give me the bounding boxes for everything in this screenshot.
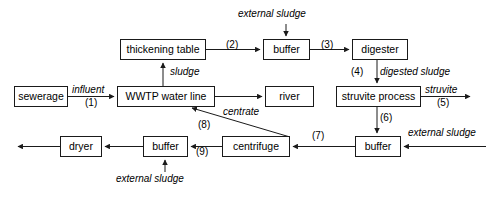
label-struvite-output: struvite <box>425 85 457 95</box>
label-flow-8: (8) <box>198 120 210 130</box>
node-digester[interactable]: digester <box>352 39 408 60</box>
label-external-sludge-right: external sludge <box>408 128 476 138</box>
label-external-sludge-bottom: external sludge <box>116 174 184 184</box>
label-flow-3: (3) <box>321 40 333 50</box>
node-river[interactable]: river <box>265 86 314 107</box>
node-sewerage[interactable]: sewerage <box>14 86 68 107</box>
label-flow-2: (2) <box>226 40 238 50</box>
node-label: centrifuge <box>233 141 279 152</box>
node-label: struvite process <box>342 91 416 102</box>
label-flow-4: (4) <box>351 67 363 77</box>
node-centrifuge[interactable]: centrifuge <box>222 136 290 157</box>
label-influent: influent <box>72 85 104 95</box>
node-label: thickening table <box>127 44 200 55</box>
label-sludge: sludge <box>170 67 199 77</box>
node-label: dryer <box>69 141 93 152</box>
node-label: buffer <box>273 44 300 55</box>
flow-diagram: sewerage WWTP water line thickening tabl… <box>0 0 487 199</box>
node-label: buffer <box>152 141 179 152</box>
label-centrate: centrate <box>223 107 259 117</box>
node-label: river <box>279 91 299 102</box>
node-wwtp-water-line[interactable]: WWTP water line <box>117 86 215 107</box>
node-dryer[interactable]: dryer <box>60 136 102 157</box>
label-flow-9: (9) <box>196 147 208 157</box>
label-flow-7: (7) <box>312 131 324 141</box>
label-flow-5: (5) <box>437 98 449 108</box>
node-buffer-bottom-right[interactable]: buffer <box>355 136 401 157</box>
node-label: digester <box>361 44 398 55</box>
node-struvite-process[interactable]: struvite process <box>336 86 421 107</box>
label-digested-sludge: digested sludge <box>380 67 450 77</box>
label-flow-1: (1) <box>85 98 97 108</box>
node-label: WWTP water line <box>126 91 207 102</box>
label-flow-6: (6) <box>380 113 392 123</box>
node-label: buffer <box>365 141 392 152</box>
node-buffer-top[interactable]: buffer <box>263 39 310 60</box>
node-thickening-table[interactable]: thickening table <box>120 39 206 60</box>
node-label: sewerage <box>18 91 64 102</box>
label-external-sludge-top: external sludge <box>238 9 306 19</box>
node-buffer-bottom-left[interactable]: buffer <box>143 136 188 157</box>
